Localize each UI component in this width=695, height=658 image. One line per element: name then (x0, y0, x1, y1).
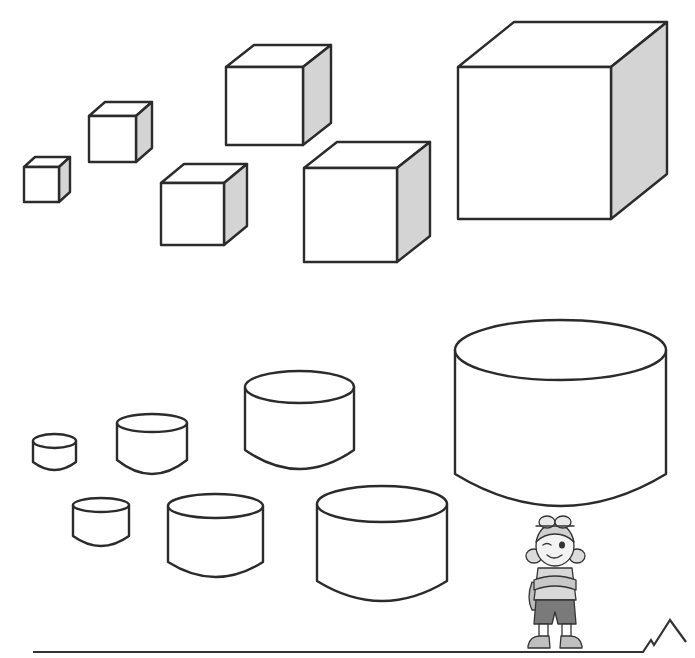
cube-5 (304, 142, 430, 262)
cylinder-7 (455, 320, 666, 506)
cylinder-4 (168, 494, 263, 577)
cube-front-face (226, 67, 303, 145)
cylinder-top-ellipse (317, 486, 447, 522)
cubes-group (24, 22, 667, 262)
left-sneaker (528, 636, 550, 648)
cube-front-face (458, 67, 611, 219)
cube-2 (89, 102, 152, 162)
cube-front-face (89, 116, 136, 162)
cube-4 (226, 45, 331, 145)
cylinder-top-ellipse (245, 371, 354, 403)
cube-front-face (304, 168, 397, 262)
cylinder-5 (245, 371, 354, 469)
cylinder-top-ellipse (73, 498, 129, 512)
ground-line (33, 620, 686, 652)
worksheet-canvas (0, 0, 695, 658)
cube-front-face (24, 167, 59, 202)
open-eye (559, 542, 565, 549)
cylinder-top-ellipse (33, 434, 76, 448)
cylinder-3 (73, 498, 129, 546)
cylinder-2 (117, 414, 187, 474)
cylinder-top-ellipse (168, 494, 263, 518)
cube-6 (458, 22, 667, 219)
cylinder-1 (33, 434, 76, 470)
cylinder-6 (317, 486, 447, 601)
explorer-girl-mascot (526, 516, 585, 648)
right-sneaker (560, 636, 582, 648)
cube-3 (161, 164, 247, 245)
cube-1 (24, 157, 70, 202)
cube-front-face (161, 183, 224, 245)
cylinder-top-ellipse (117, 414, 187, 432)
cylinder-top-ellipse (455, 320, 666, 380)
shorts (534, 600, 576, 624)
